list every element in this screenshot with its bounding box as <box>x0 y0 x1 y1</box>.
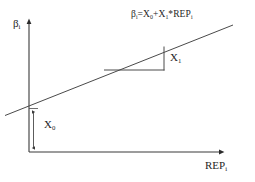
equation-term3-sub: i <box>191 14 193 20</box>
slope-label-main: X <box>170 51 178 63</box>
slope-label-sub: 1 <box>178 57 181 64</box>
x-axis-label: REPi <box>205 160 227 171</box>
equation-term2-sub: 1 <box>165 14 168 20</box>
x-axis-label-sub: i <box>225 165 227 172</box>
intercept-label-main: X <box>44 118 52 130</box>
slope-coefficient-label: X1 <box>170 52 181 63</box>
y-axis-label-main: β <box>13 17 19 29</box>
intercept-label-sub: 0 <box>52 124 55 131</box>
regression-equation-label: βi=X0+X1*REPi <box>131 10 193 20</box>
y-axis-label-sub: i <box>19 23 21 30</box>
intercept-coefficient-label: X0 <box>44 119 55 130</box>
equation-term3: REP <box>173 9 191 19</box>
equation-lhs-sub: i <box>136 14 138 20</box>
y-axis-label: βi <box>13 18 21 29</box>
diagram-canvas <box>0 0 255 182</box>
regression-diagram: βi REPi βi=X0+X1*REPi X1 X0 <box>0 0 255 182</box>
equation-term1: X <box>143 9 150 19</box>
equation-term1-sub: 0 <box>150 14 153 20</box>
x-axis-label-main: REP <box>205 159 225 171</box>
